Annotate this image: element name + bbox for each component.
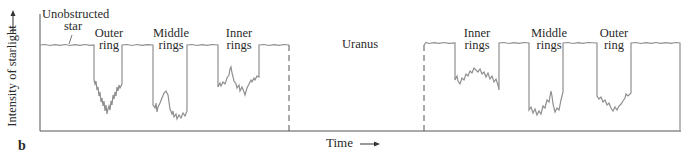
panel-label: b bbox=[18, 138, 26, 154]
y-axis-label: Intensity of starlight bbox=[4, 22, 20, 130]
light-curve-figure: Intensity of starlight Unobstructed star… bbox=[0, 0, 698, 157]
light-curve-right bbox=[424, 43, 680, 132]
annotation-line-2: ring bbox=[597, 39, 631, 51]
x-axis-label: Time bbox=[326, 137, 353, 149]
annotation-line-2: rings bbox=[460, 39, 494, 51]
annotation-middle-rings-right: Middle rings bbox=[526, 27, 572, 51]
annotation-uranus: Uranus bbox=[330, 38, 390, 50]
annotation-line-2: rings bbox=[526, 39, 572, 51]
annotation-middle-rings-left: Middle rings bbox=[148, 27, 194, 51]
y-axis-label-text: Intensity of starlight bbox=[5, 25, 20, 126]
light-curve-left bbox=[40, 45, 289, 120]
annotation-outer-ring-left: Outer ring bbox=[92, 27, 126, 51]
annotation-inner-rings-left: Inner rings bbox=[222, 27, 256, 51]
annotation-leader bbox=[69, 35, 72, 44]
annotation-line-2: ring bbox=[92, 39, 126, 51]
annotation-outer-ring-right: Outer ring bbox=[597, 27, 631, 51]
annotation-inner-rings-right: Inner rings bbox=[460, 27, 494, 51]
time-arrow-icon bbox=[360, 142, 380, 147]
annotation-line-2: rings bbox=[222, 39, 256, 51]
annotation-line-2: rings bbox=[148, 39, 194, 51]
